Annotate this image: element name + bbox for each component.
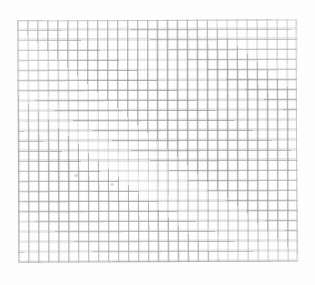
smudge-mid [110, 183, 114, 186]
smudge-faint [226, 95, 229, 97]
smudge-left [74, 174, 78, 177]
grid-outer-border [17, 19, 297, 262]
graph-paper-scan: Graph paper scan Scanned sheet of square… [0, 0, 315, 285]
graph-paper-grid [17, 19, 297, 262]
